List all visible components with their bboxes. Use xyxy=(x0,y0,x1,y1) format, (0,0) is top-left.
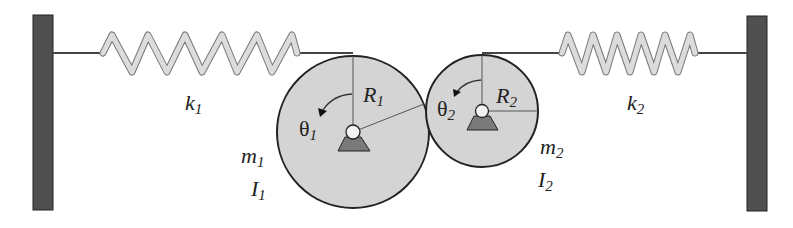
label-m2: m2 xyxy=(540,134,564,161)
label-I2: I2 xyxy=(537,167,553,194)
pivot-pin-1 xyxy=(346,125,360,139)
label-k1: k1 xyxy=(185,90,202,117)
label-m1: m1 xyxy=(241,143,264,170)
pivot-pin-2 xyxy=(476,105,489,118)
spring-k1 xyxy=(103,35,297,72)
label-I1: I1 xyxy=(250,176,266,203)
right-wall xyxy=(747,16,767,211)
left-wall xyxy=(33,15,53,210)
label-k2: k2 xyxy=(627,90,645,117)
mechanical-diagram: k1 k2 R1 R2 θ1 θ2 m1 I1 m2 I2 xyxy=(0,0,793,228)
spring-k2 xyxy=(562,35,695,72)
